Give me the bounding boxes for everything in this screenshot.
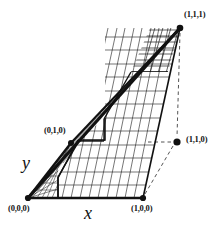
edge-yunit-to-apex: [71, 28, 180, 143]
axis-label-x: x: [84, 203, 92, 224]
vertex-label-111: (1,1,1): [184, 9, 205, 19]
vertex-label-110: (1,1,0): [186, 134, 207, 144]
marker-top-apex: [177, 25, 184, 32]
marker-xy-corner: [173, 138, 180, 145]
outline-edges: [28, 28, 180, 198]
vertex-label-000: (0,0,0): [8, 203, 29, 213]
dash-apex-to-xy: [177, 33, 180, 137]
marker-x-unit: [140, 195, 146, 201]
marker-origin: [25, 195, 31, 201]
marker-y-unit: [68, 140, 74, 146]
simplex-mesh-figure: (1,1,1) (1,1,0) (0,1,0) (0,0,0) (1,0,0) …: [0, 0, 222, 228]
vertex-label-010: (0,1,0): [44, 125, 65, 135]
edge-x-to-apex: [143, 28, 180, 198]
axis-label-y: y: [22, 153, 30, 174]
vertex-label-100: (1,0,0): [131, 203, 152, 213]
diagram-canvas: [0, 0, 222, 228]
